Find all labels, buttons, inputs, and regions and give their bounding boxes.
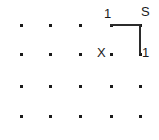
grid-dot <box>49 53 52 56</box>
diagram-canvas: 1 S 1 X <box>0 0 159 140</box>
grid-dot <box>20 85 23 88</box>
grid-dot <box>139 115 142 118</box>
marker-x-label: X <box>97 46 106 59</box>
grid-dot <box>110 115 113 118</box>
grid-dot <box>79 24 82 27</box>
label-start-node-s: S <box>141 5 150 18</box>
grid-dot <box>49 115 52 118</box>
label-bottom-right-length: 1 <box>142 46 149 59</box>
grid-dot <box>20 24 23 27</box>
grid-dot <box>20 115 23 118</box>
grid-dot <box>79 115 82 118</box>
path-segment-horizontal <box>110 24 140 26</box>
grid-dot-marked-x <box>110 53 113 56</box>
grid-dot <box>49 24 52 27</box>
grid-dot <box>49 85 52 88</box>
grid-dot <box>20 53 23 56</box>
label-top-left-length: 1 <box>104 7 111 20</box>
grid-dot <box>79 53 82 56</box>
grid-dot <box>110 85 113 88</box>
grid-dot <box>79 85 82 88</box>
path-segment-vertical <box>139 24 141 54</box>
grid-dot <box>139 85 142 88</box>
